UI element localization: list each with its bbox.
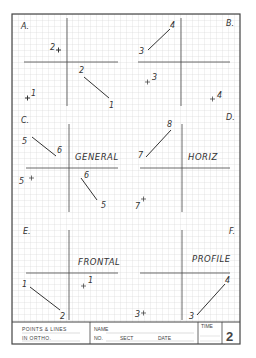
label-b-line-end: 4 xyxy=(170,21,175,30)
label-d-line-end: 8 xyxy=(167,120,172,129)
label-a-line-end: 1 xyxy=(109,101,114,110)
label-c-line2-end: 5 xyxy=(101,201,106,210)
label-a-p-top: 2 xyxy=(50,43,55,52)
quadrant-label-a: A. xyxy=(20,22,29,31)
quadrant-label-c: C. xyxy=(21,116,29,125)
label-e-p-mid: 1 xyxy=(88,276,93,285)
quadrant-label-d: D. xyxy=(226,113,235,122)
label-b-line-start: 3 xyxy=(139,47,144,56)
label-c-line2-start: 6 xyxy=(84,171,89,180)
title-block-no-label: NO. xyxy=(94,335,103,341)
title-block-name-label: NAME xyxy=(94,326,109,332)
quadrant-label-b: B. xyxy=(226,19,234,28)
label-a-p-bottom: 1 xyxy=(31,89,36,98)
label-f-line-end: 4 xyxy=(225,276,230,285)
quadrant-title-horiz: HORIZ xyxy=(188,152,218,162)
label-f-p-bottom: 3 xyxy=(135,310,140,319)
label-c-line-end: 6 xyxy=(57,146,62,155)
label-a-line-start: 2 xyxy=(79,66,84,75)
label-e-line-end: 2 xyxy=(60,312,65,321)
title-block-sheet-number: 2 xyxy=(226,329,233,344)
title-block-title-line2: IN ORTHO. xyxy=(22,335,51,341)
drawing-sheet: A. B. C. D. E. F. GENERAL HORIZ FRONTAL … xyxy=(0,0,256,358)
quadrant-title-profile: PROFILE xyxy=(192,254,231,264)
label-e-line-start: 1 xyxy=(22,280,27,289)
quadrant-label-e: E. xyxy=(23,227,31,236)
quadrant-label-f: F. xyxy=(229,227,235,236)
title-block-title-line1: POINTS & LINES xyxy=(22,326,67,332)
label-c-line-start: 5 xyxy=(22,137,27,146)
title-block-time-label: TIME xyxy=(201,323,214,329)
quadrant-title-general: GENERAL xyxy=(75,152,119,162)
title-block-sect-label: SECT xyxy=(120,335,133,341)
label-f-line-start: 3 xyxy=(189,312,194,321)
title-block-date-label: DATE xyxy=(158,335,172,341)
label-b-p-mid: 3 xyxy=(152,73,157,82)
quadrant-title-frontal: FRONTAL xyxy=(78,257,120,267)
label-c-p-left: 5 xyxy=(19,177,24,186)
label-b-p-bottom: 4 xyxy=(217,91,222,100)
